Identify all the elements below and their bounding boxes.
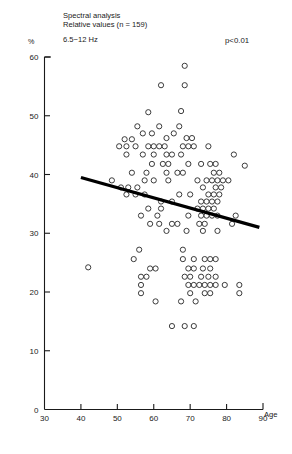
y-tick-label: 40	[30, 171, 39, 180]
x-tick-label: 80	[222, 414, 231, 423]
data-point	[153, 299, 158, 304]
data-point	[211, 170, 216, 175]
y-tick-label: 30	[30, 229, 39, 238]
data-point	[213, 185, 218, 190]
data-point	[209, 199, 214, 204]
data-point	[204, 199, 209, 204]
data-point	[133, 144, 138, 149]
data-point	[213, 282, 218, 287]
data-point	[177, 192, 182, 197]
data-point	[138, 291, 143, 296]
data-point	[202, 221, 207, 226]
data-point	[178, 299, 183, 304]
data-point	[175, 221, 180, 226]
data-point	[146, 144, 151, 149]
data-point	[200, 266, 205, 271]
data-point	[213, 161, 218, 166]
data-point	[124, 144, 129, 149]
data-point	[171, 131, 176, 136]
x-tick-group: 30405060708090	[40, 404, 268, 423]
data-point	[140, 131, 145, 136]
data-point	[157, 221, 162, 226]
data-point	[191, 257, 196, 262]
data-point	[160, 161, 165, 166]
data-point	[202, 282, 207, 287]
data-point	[213, 257, 218, 262]
data-point	[206, 274, 211, 279]
data-point	[191, 282, 196, 287]
data-point	[124, 192, 129, 197]
data-point	[151, 178, 156, 183]
data-point	[217, 192, 222, 197]
data-point	[151, 152, 156, 157]
data-point	[164, 228, 169, 233]
data-point	[188, 192, 193, 197]
y-tick-label: 20	[30, 288, 39, 297]
data-point	[222, 282, 227, 287]
data-point	[213, 274, 218, 279]
x-tick-label: 40	[76, 414, 85, 423]
data-point	[148, 221, 153, 226]
data-point	[198, 161, 203, 166]
data-point	[86, 265, 91, 270]
data-point	[109, 178, 114, 183]
data-point	[148, 266, 153, 271]
data-point	[144, 170, 149, 175]
data-point	[169, 323, 174, 328]
data-point	[149, 131, 154, 136]
data-point	[146, 110, 151, 115]
data-point	[135, 185, 140, 190]
data-point	[188, 274, 193, 279]
data-point	[195, 178, 200, 183]
data-point	[226, 178, 231, 183]
data-point	[208, 257, 213, 262]
data-point	[200, 228, 205, 233]
y-tick-label: 0	[34, 406, 39, 415]
data-point	[215, 199, 220, 204]
data-point	[211, 192, 216, 197]
data-point	[186, 266, 191, 271]
data-point	[137, 247, 142, 252]
x-tick-label: 30	[40, 414, 49, 423]
data-point	[129, 170, 134, 175]
data-point	[151, 144, 156, 149]
data-point	[237, 282, 242, 287]
data-point	[191, 323, 196, 328]
data-point	[158, 206, 163, 211]
data-point	[198, 274, 203, 279]
data-point	[182, 63, 187, 68]
data-point	[193, 299, 198, 304]
data-point	[117, 144, 122, 149]
data-point	[175, 170, 180, 175]
data-point	[129, 137, 134, 142]
data-point	[237, 291, 242, 296]
x-tick-label: 60	[149, 414, 158, 423]
data-point	[233, 213, 238, 218]
data-point	[178, 108, 183, 113]
data-point	[206, 144, 211, 149]
data-points-group	[86, 63, 248, 328]
data-point	[184, 228, 189, 233]
data-point	[140, 152, 145, 157]
data-point	[157, 144, 162, 149]
data-point	[144, 274, 149, 279]
data-point	[146, 206, 151, 211]
data-point	[215, 178, 220, 183]
y-tick-group: 0102030405060	[30, 53, 50, 415]
data-point	[204, 178, 209, 183]
data-point	[198, 199, 203, 204]
data-point	[155, 213, 160, 218]
data-point	[162, 144, 167, 149]
data-point	[229, 221, 234, 226]
data-point	[206, 192, 211, 197]
data-point	[209, 178, 214, 183]
y-tick-label: 50	[30, 112, 39, 121]
data-point	[164, 152, 169, 157]
y-tick-label: 60	[30, 53, 39, 62]
data-point	[182, 274, 187, 279]
data-point	[186, 213, 191, 218]
data-point	[138, 282, 143, 287]
data-point	[178, 152, 183, 157]
data-point	[200, 185, 205, 190]
plot-area: 0102030405060 30405060708090	[0, 0, 292, 454]
